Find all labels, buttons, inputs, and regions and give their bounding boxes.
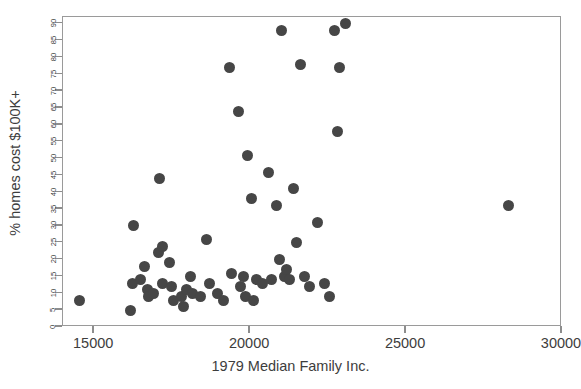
y-tick-label-text: 35 [49, 204, 57, 212]
y-tick-label-text: 25 [49, 238, 57, 246]
y-tick-label: 25 [52, 242, 53, 243]
data-point [166, 281, 177, 292]
data-point [164, 257, 175, 268]
y-tick-label: 30 [52, 225, 53, 226]
y-tick-label: 70 [52, 90, 53, 91]
y-tick-label: 50 [52, 158, 53, 159]
x-tick-mark [248, 326, 249, 333]
x-tick-mark [92, 326, 93, 333]
scatter-plot-figure: 051015202530354045505560657075808590 % h… [0, 0, 581, 389]
y-tick-label-text: 55 [49, 137, 57, 145]
y-tick-label-text: 20 [49, 255, 57, 263]
data-point [284, 274, 295, 285]
y-tick-label-text: 65 [49, 103, 57, 111]
y-tick-label-text: 75 [49, 70, 57, 78]
data-point [226, 268, 237, 279]
y-tick-label: 90 [52, 23, 53, 24]
data-point [154, 173, 165, 184]
x-axis-title: 1979 Median Family Inc. [0, 358, 581, 374]
data-points-layer [63, 17, 560, 325]
data-point [271, 200, 282, 211]
data-point [312, 217, 323, 228]
data-point [195, 291, 206, 302]
data-point [295, 59, 306, 70]
data-point [329, 25, 340, 36]
data-point [332, 126, 343, 137]
y-tick-label: 45 [52, 174, 53, 175]
y-tick-label: 10 [52, 292, 53, 293]
data-point [263, 167, 274, 178]
y-tick-label-text: 15 [49, 272, 57, 280]
x-tick-label: 20000 [229, 335, 269, 351]
y-tick-label: 75 [52, 73, 53, 74]
y-tick-label-text: 80 [49, 53, 57, 61]
y-tick-label: 15 [52, 275, 53, 276]
y-tick-label-text: 85 [49, 36, 57, 44]
x-tick-label: 25000 [385, 335, 425, 351]
y-tick-label: 60 [52, 124, 53, 125]
y-tick-label-text: 40 [49, 187, 57, 195]
y-tick-label: 65 [52, 107, 53, 108]
data-point [242, 150, 253, 161]
data-point [139, 261, 150, 272]
y-tick-label-text: 90 [49, 19, 57, 27]
data-point [185, 271, 196, 282]
data-point [334, 62, 345, 73]
y-tick-label: 35 [52, 208, 53, 209]
y-tick-label-text: 5 [49, 308, 57, 312]
y-tick-label: 55 [52, 141, 53, 142]
data-point [204, 278, 215, 289]
data-point [503, 200, 514, 211]
data-point [178, 301, 189, 312]
data-point [291, 237, 302, 248]
y-tick-label: 20 [52, 259, 53, 260]
data-point [238, 271, 249, 282]
data-point [128, 220, 139, 231]
data-point [201, 234, 212, 245]
data-point [246, 193, 257, 204]
data-point [340, 18, 351, 29]
data-point [157, 241, 168, 252]
x-tick-label: 15000 [73, 335, 113, 351]
x-tick-label: 30000 [541, 335, 581, 351]
y-tick-label: 5 [52, 309, 53, 310]
plot-area [62, 16, 561, 326]
data-point [276, 25, 287, 36]
data-point [288, 183, 299, 194]
data-point [233, 106, 244, 117]
x-tick-mark [404, 326, 405, 333]
y-tick-label: 80 [52, 56, 53, 57]
data-point [218, 295, 229, 306]
data-point [304, 281, 315, 292]
y-tick-label-text: 30 [49, 221, 57, 229]
y-tick-label: 85 [52, 40, 53, 41]
data-point [224, 62, 235, 73]
y-tick-label-text: 45 [49, 171, 57, 179]
data-point [74, 295, 85, 306]
data-point [148, 288, 159, 299]
y-axis-title: % homes cost $100K+ [6, 0, 24, 326]
data-point [248, 295, 259, 306]
y-tick-label-text: 60 [49, 120, 57, 128]
data-point [319, 278, 330, 289]
x-axis: 15000200002500030000 1979 Median Family … [0, 326, 581, 389]
x-tick-mark [560, 326, 561, 333]
data-point [324, 291, 335, 302]
y-tick-label-text: 50 [49, 154, 57, 162]
data-point [266, 274, 277, 285]
y-tick-label-text: 70 [49, 86, 57, 94]
y-tick-label-text: 10 [49, 289, 57, 297]
data-point [125, 305, 136, 316]
y-tick-label: 40 [52, 191, 53, 192]
y-axis-title-text: % homes cost $100K+ [7, 90, 23, 236]
